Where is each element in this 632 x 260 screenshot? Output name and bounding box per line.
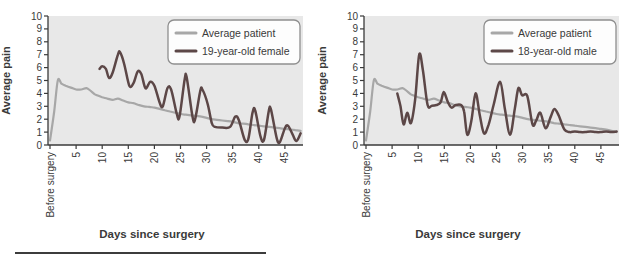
x-tick-label: 35 — [543, 152, 554, 164]
x-tick-label: 20 — [149, 152, 160, 164]
y-tick-label: 0 — [352, 140, 358, 151]
legend-label-1: 19-year-old female — [202, 45, 290, 57]
y-tick-label: 6 — [352, 62, 358, 73]
y-tick-label: 2 — [36, 114, 42, 125]
x-tick-label: Before surgery — [45, 152, 56, 218]
y-tick-label: 9 — [36, 23, 42, 34]
x-tick-label: Before surgery — [361, 152, 372, 218]
y-tick-label: 8 — [36, 36, 42, 47]
x-tick-label: 30 — [517, 152, 528, 164]
y-tick-label: 4 — [36, 88, 42, 99]
y-tick-label: 1 — [352, 127, 358, 138]
x-tick-label: 5 — [71, 152, 82, 158]
x-tick-label: 45 — [595, 152, 606, 164]
chart-19-year-old-female: 012345678910Before surgery51015202530354… — [0, 2, 312, 248]
y-tick-label: 4 — [352, 88, 358, 99]
y-tick-label: 3 — [352, 101, 358, 112]
x-tick-label: 25 — [175, 152, 186, 164]
x-tick-label: 5 — [387, 152, 398, 158]
legend-label-1: 18-year-old male — [518, 45, 597, 57]
pain-charts-figure: 012345678910Before surgery51015202530354… — [0, 0, 632, 260]
y-tick-label: 1 — [36, 127, 42, 138]
x-tick-label: 25 — [491, 152, 502, 164]
x-tick-label: 35 — [227, 152, 238, 164]
y-tick-label: 10 — [347, 11, 359, 22]
legend-label-0: Average patient — [202, 27, 275, 39]
y-tick-label: 10 — [31, 11, 43, 22]
y-tick-label: 2 — [352, 114, 358, 125]
y-tick-label: 3 — [36, 101, 42, 112]
x-tick-label: 40 — [253, 152, 264, 164]
legend-label-0: Average patient — [518, 27, 591, 39]
y-tick-label: 6 — [36, 62, 42, 73]
y-axis-title: Average pain — [0, 46, 12, 115]
x-tick-label: 15 — [439, 152, 450, 164]
x-tick-label: 10 — [413, 152, 424, 164]
y-tick-label: 8 — [352, 36, 358, 47]
x-tick-label: 10 — [97, 152, 108, 164]
x-tick-label: 20 — [465, 152, 476, 164]
x-axis-title: Days since surgery — [415, 228, 521, 240]
x-tick-label: 15 — [123, 152, 134, 164]
x-tick-label: 40 — [569, 152, 580, 164]
x-tick-label: 45 — [279, 152, 290, 164]
y-tick-label: 7 — [352, 49, 358, 60]
y-axis-title: Average pain — [316, 46, 328, 115]
x-axis-title: Days since surgery — [99, 228, 205, 240]
y-tick-label: 7 — [36, 49, 42, 60]
y-tick-label: 5 — [352, 75, 358, 86]
x-tick-label: 30 — [201, 152, 212, 164]
y-tick-label: 5 — [36, 75, 42, 86]
chart-18-year-old-male: 012345678910Before surgery51015202530354… — [316, 2, 628, 248]
y-tick-label: 9 — [352, 23, 358, 34]
bottom-rule — [15, 252, 266, 254]
y-tick-label: 0 — [36, 140, 42, 151]
